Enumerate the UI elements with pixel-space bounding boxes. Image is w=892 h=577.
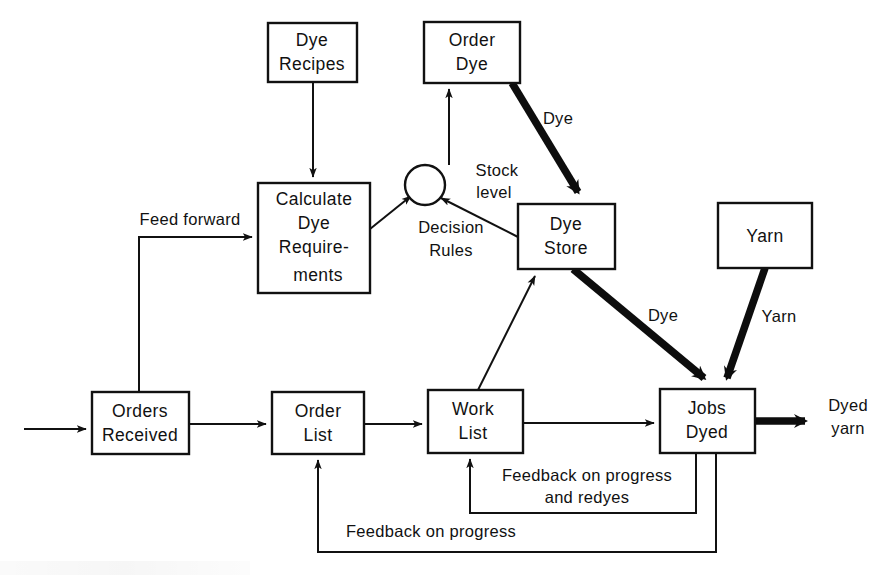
flow-yarn-to-jobs-dyed	[727, 268, 765, 378]
node-work-list-label-line1: Work	[452, 399, 494, 419]
flow-work-list-to-dye-store	[478, 276, 535, 390]
edge-label-feedback-redyes-line2: and redyes	[545, 488, 630, 506]
edge-label-feedback-progress: Feedback on progress	[346, 522, 516, 540]
diagram-canvas: Dye Recipes Order Dye Calculate Dye Requ…	[0, 0, 892, 577]
node-orders-received-label-line1: Orders	[112, 401, 168, 421]
node-calculate-label-line2: Dye	[298, 213, 330, 233]
node-dye-store-label-line2: Store	[544, 238, 588, 258]
node-dye-store-label-line1: Dye	[550, 214, 582, 234]
edge-label-dyed-yarn-line2: yarn	[831, 419, 864, 437]
edge-label-dye-store-to-jobs: Dye	[648, 306, 678, 324]
edge-label-feed-forward: Feed forward	[140, 210, 241, 228]
node-calculate-label-line1: Calculate	[276, 189, 353, 209]
node-jobs-dyed-label-line1: Jobs	[688, 398, 727, 418]
node-yarn[interactable]: Yarn	[718, 203, 812, 268]
node-decision-junction[interactable]	[405, 165, 445, 205]
node-dye-recipes-label-line1: Dye	[296, 30, 328, 50]
node-order-dye-label-line1: Order	[449, 30, 496, 50]
node-jobs-dyed[interactable]: Jobs Dyed	[660, 389, 755, 453]
node-dye-recipes[interactable]: Dye Recipes	[268, 23, 357, 82]
node-order-dye[interactable]: Order Dye	[424, 22, 520, 83]
flow-calculate-to-decision	[370, 196, 411, 229]
edge-label-yarn-to-jobs: Yarn	[762, 307, 797, 325]
edge-label-stock-level-line2: level	[476, 183, 511, 201]
node-jobs-dyed-label-line2: Dyed	[686, 422, 728, 442]
node-orders-received-label-line2: Received	[102, 425, 178, 445]
node-work-list-label-line2: List	[459, 423, 488, 443]
node-calculate-dye-requirements[interactable]: Calculate Dye Require- ments	[258, 183, 370, 293]
flow-order-dye-to-dye-store	[512, 83, 578, 192]
node-orders-received[interactable]: Orders Received	[92, 392, 189, 454]
flow-orders-to-calculate-feedforward	[139, 237, 252, 392]
node-calculate-label-line3: Require-	[279, 237, 349, 257]
node-order-list[interactable]: Order List	[272, 392, 364, 454]
edge-label-dye-order-to-store: Dye	[543, 109, 573, 127]
edge-label-stock-level-line1: Stock	[476, 161, 519, 179]
flow-diagram: Dye Recipes Order Dye Calculate Dye Requ…	[0, 0, 892, 577]
node-dye-store[interactable]: Dye Store	[518, 204, 615, 269]
flow-dye-store-to-jobs-dyed	[573, 269, 704, 378]
edge-label-decision-rules-line1: Decision	[418, 218, 484, 236]
node-order-list-label-line2: List	[304, 425, 333, 445]
edge-label-decision-rules-line2: Rules	[429, 241, 473, 259]
node-calculate-label-line4: ments	[293, 265, 343, 285]
node-order-list-label-line1: Order	[295, 401, 342, 421]
node-order-dye-label-line2: Dye	[456, 54, 488, 74]
edge-label-dyed-yarn-line1: Dyed	[828, 396, 868, 414]
node-yarn-label-line1: Yarn	[746, 226, 783, 246]
edge-label-feedback-redyes-line1: Feedback on progress	[502, 466, 672, 484]
node-work-list[interactable]: Work List	[428, 390, 523, 453]
node-dye-recipes-label-line2: Recipes	[279, 54, 345, 74]
